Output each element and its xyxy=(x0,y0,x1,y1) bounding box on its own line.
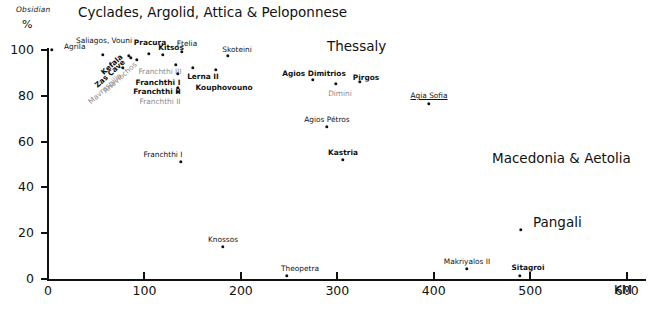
data-point xyxy=(191,66,194,69)
data-point xyxy=(311,78,314,81)
x-tick-mark-500 xyxy=(529,272,531,281)
y-tick-mark-0 xyxy=(41,278,49,280)
data-point xyxy=(427,102,430,105)
point-label: Lerna II xyxy=(187,73,219,80)
region-title-1: Thessaly xyxy=(327,38,386,54)
region-title-2: Macedonia & Aetolia xyxy=(492,150,631,166)
point-label: Franchthi III xyxy=(138,68,181,75)
point-label: Knossos xyxy=(208,236,238,243)
point-label: Franchthi I xyxy=(136,79,181,86)
data-point xyxy=(341,158,344,161)
y-tick-mark-20 xyxy=(41,232,49,234)
point-label: Sitagroi xyxy=(512,264,545,271)
data-point xyxy=(226,54,229,57)
y-tick-label-40: 40 xyxy=(0,179,34,194)
data-point xyxy=(179,160,182,163)
data-point xyxy=(135,58,138,61)
point-label: Agios Pétros xyxy=(304,116,349,123)
y-tick-mark-80 xyxy=(41,95,49,97)
point-label: Makriyalos II xyxy=(444,258,490,265)
data-point xyxy=(101,53,104,56)
y-tick-mark-60 xyxy=(41,141,49,143)
y-tick-label-100: 100 xyxy=(0,42,34,57)
y-tick-mark-100 xyxy=(41,49,49,51)
point-label: Agios Dimitrios xyxy=(282,70,346,77)
y-tick-label-80: 80 xyxy=(0,88,34,103)
data-point xyxy=(50,48,53,51)
x-tick-mark-400 xyxy=(433,272,435,281)
x-tick-label-500: 500 xyxy=(500,283,560,298)
point-label: Franchthi II xyxy=(133,88,181,95)
region-title-3: Pangali xyxy=(533,214,582,230)
x-tick-label-0: 0 xyxy=(18,283,78,298)
x-tick-label-100: 100 xyxy=(114,283,174,298)
x-tick-label-300: 300 xyxy=(307,283,367,298)
data-point xyxy=(518,274,521,277)
point-label: Franchthi II xyxy=(139,98,180,105)
y-axis-title: Obsidian xyxy=(16,5,50,14)
data-point xyxy=(147,52,150,55)
point-label: Pirgos xyxy=(353,74,379,81)
x-tick-label-600: 600 xyxy=(597,283,655,298)
point-label: Kouphovouno xyxy=(195,84,252,91)
region-title-0: Cyclades, Argolid, Attica & Peloponnese xyxy=(78,4,347,20)
point-label: Franchthi I xyxy=(144,151,183,158)
data-point xyxy=(325,125,328,128)
data-point xyxy=(221,245,224,248)
point-label: Kastria xyxy=(328,149,358,156)
x-tick-mark-100 xyxy=(143,272,145,281)
x-tick-label-400: 400 xyxy=(404,283,464,298)
data-point xyxy=(161,53,164,56)
point-label: Skoteini xyxy=(222,46,251,53)
x-axis-line xyxy=(47,279,646,281)
x-tick-mark-200 xyxy=(240,272,242,281)
data-point xyxy=(519,228,522,231)
y-tick-label-60: 60 xyxy=(0,134,34,149)
y-axis-line xyxy=(47,48,49,280)
point-label: Saliagos, Vouni xyxy=(76,37,132,44)
data-point xyxy=(285,274,288,277)
x-tick-mark-600 xyxy=(626,272,628,281)
point-label: Ftelia xyxy=(177,40,197,47)
y-axis-unit: % xyxy=(22,18,32,31)
x-tick-label-200: 200 xyxy=(211,283,271,298)
data-point xyxy=(180,50,183,53)
point-label: Agia Sofia xyxy=(410,92,447,99)
point-label: Dimini xyxy=(328,90,352,97)
point-label: Theopetra xyxy=(281,265,319,272)
data-point xyxy=(334,82,337,85)
obsidian-distance-scatter-chart: Obsidian % KM 020406080100 0100200300400… xyxy=(0,0,655,309)
y-tick-label-20: 20 xyxy=(0,225,34,240)
y-tick-mark-40 xyxy=(41,186,49,188)
x-tick-mark-300 xyxy=(336,272,338,281)
data-point xyxy=(465,267,468,270)
